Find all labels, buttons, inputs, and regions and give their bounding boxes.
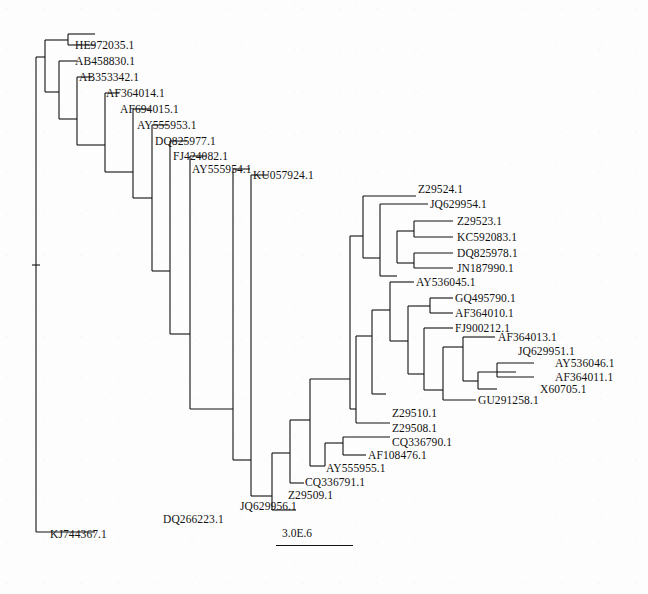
tip-label-x60705-1: X60705.1: [540, 384, 586, 396]
phylogenetic-tree-figure: HE972035.1AB458830.1AB353342.1AF364014.1…: [0, 0, 648, 594]
tip-label-he972035-1: HE972035.1: [75, 40, 134, 52]
tip-label-fj424082-1: FJ424082.1: [173, 151, 228, 163]
tip-label-jq629951-1: JQ629951.1: [518, 346, 575, 358]
tip-label-z29523-1: Z29523.1: [457, 216, 502, 228]
tip-label-jq629956-1: JQ629956.1: [240, 501, 297, 513]
tree-branches: [0, 0, 648, 594]
tip-label-af108476-1: AF108476.1: [368, 450, 427, 462]
tip-label-af364013-1: AF364013.1: [498, 332, 557, 344]
tip-label-cq336791-1: CQ336791.1: [305, 477, 365, 489]
tip-label-ay536045-1: AY536045.1: [416, 277, 476, 289]
tip-label-ab458830-1: AB458830.1: [75, 56, 135, 68]
tip-label-dq266223-1: DQ266223.1: [163, 514, 224, 526]
tip-label-cq336790-1: CQ336790.1: [392, 437, 452, 449]
tip-label-jn187990-1: JN187990.1: [457, 263, 514, 275]
scale-bar-line: [276, 545, 353, 546]
tip-label-af364010-1: AF364010.1: [455, 308, 514, 320]
tip-label-z29524-1: Z29524.1: [418, 184, 463, 196]
tip-label-ab353342-1: AB353342.1: [79, 72, 139, 84]
tip-label-kc592083-1: KC592083.1: [457, 232, 517, 244]
tip-label-ay555954-1: AY555954.1: [192, 164, 252, 176]
tip-label-af364011-1: AF364011.1: [555, 372, 613, 384]
tip-label-ku057924-1: KU057924.1: [253, 170, 314, 182]
tip-label-af694015-1: AF694015.1: [120, 104, 179, 116]
tip-label-z29508-1: Z29508.1: [392, 423, 437, 435]
tip-label-kj744367-1: KJ744367.1: [50, 529, 107, 541]
tip-label-gq495790-1: GQ495790.1: [455, 293, 516, 305]
tip-label-z29510-1: Z29510.1: [392, 408, 437, 420]
tip-label-af364014-1: AF364014.1: [106, 88, 165, 100]
tip-label-dq825977-1: DQ825977.1: [155, 136, 216, 148]
scale-bar-label: 3.0E.6: [282, 528, 312, 540]
tip-label-dq825978-1: DQ825978.1: [457, 248, 518, 260]
tip-label-ay536046-1: AY536046.1: [555, 358, 615, 370]
tip-label-ay555955-1: AY555955.1: [326, 463, 386, 475]
tip-label-jq629954-1: JQ629954.1: [430, 199, 487, 211]
tip-label-gu291258-1: GU291258.1: [478, 395, 539, 407]
tip-label-ay555953-1: AY555953.1: [137, 120, 197, 132]
